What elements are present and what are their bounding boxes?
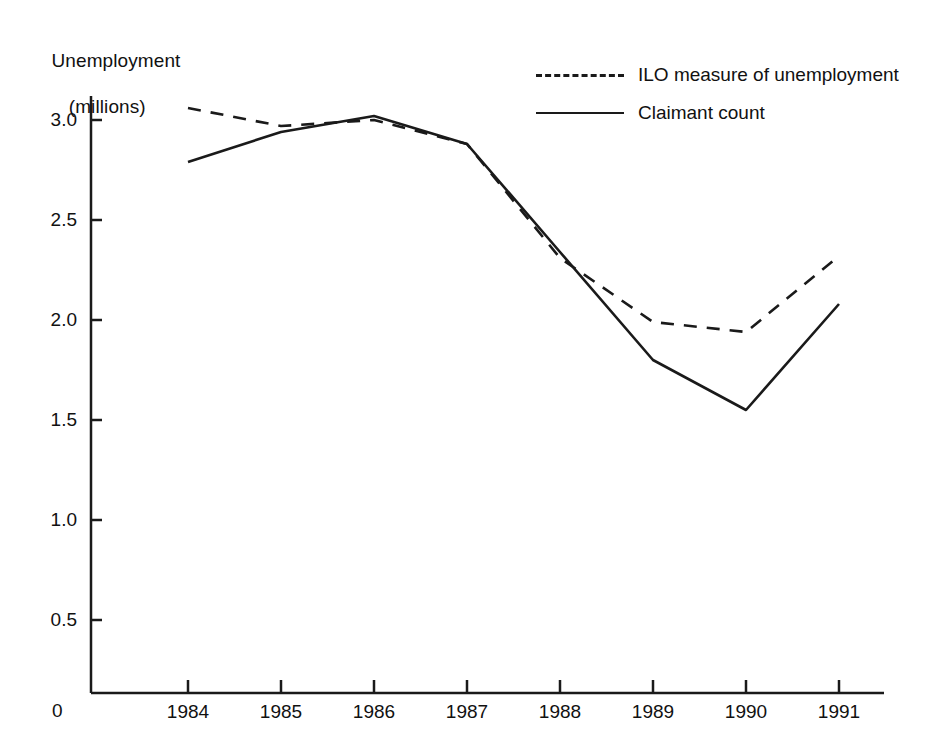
y-axis-ticks bbox=[91, 120, 102, 620]
x-axis-tick-label: 1990 bbox=[711, 701, 781, 723]
unemployment-line-chart: Unemployment (millions) 0.51.01.52.02.53… bbox=[0, 0, 931, 756]
x-axis-tick-label: 1986 bbox=[339, 701, 409, 723]
x-axis-tick-label: 1991 bbox=[804, 701, 874, 723]
y-axis-tick-label: 3.0 bbox=[19, 109, 77, 131]
legend-item-claimant: Claimant count bbox=[536, 94, 926, 132]
series-line-ilo bbox=[188, 108, 839, 332]
y-axis-tick-label: 2.0 bbox=[19, 309, 77, 331]
x-axis-ticks bbox=[188, 680, 839, 693]
data-series-layer bbox=[188, 108, 839, 410]
series-line-claimant bbox=[188, 116, 839, 410]
axes bbox=[91, 96, 884, 693]
x-axis-tick-label: 1987 bbox=[432, 701, 502, 723]
legend-label-claimant: Claimant count bbox=[624, 102, 765, 124]
y-axis-tick-label: 2.5 bbox=[19, 209, 77, 231]
x-axis-tick-label: 1984 bbox=[153, 701, 223, 723]
chart-legend: ILO measure of unemployment Claimant cou… bbox=[536, 56, 926, 132]
x-axis-tick-label: 1988 bbox=[525, 701, 595, 723]
y-axis-tick-label: 1.0 bbox=[19, 509, 77, 531]
legend-solid-line-icon bbox=[536, 106, 624, 120]
y-axis-tick-label: 1.5 bbox=[19, 409, 77, 431]
legend-item-ilo: ILO measure of unemployment bbox=[536, 56, 926, 94]
x-axis-tick-label: 1985 bbox=[246, 701, 316, 723]
legend-dashed-line-icon bbox=[536, 68, 624, 82]
legend-label-ilo: ILO measure of unemployment bbox=[624, 64, 899, 86]
x-axis-tick-label: 1989 bbox=[618, 701, 688, 723]
y-axis-tick-label: 0.5 bbox=[19, 609, 77, 631]
origin-label: 0 bbox=[52, 700, 63, 722]
